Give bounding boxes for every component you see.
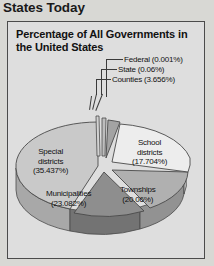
callout-label-federal: Federal (0.001%) — [124, 55, 183, 64]
slice-label-school-districts: Schooldistricts(17.704%) — [132, 138, 167, 167]
leader-line-federal-horizontal — [106, 59, 123, 60]
pie-slice-federal-top — [96, 116, 100, 156]
callout-label-state: State (0.06%) — [118, 65, 164, 74]
pie-slice-state-top — [102, 118, 106, 156]
leader-line-state-horizontal — [101, 69, 117, 70]
page-header: States Today — [0, 0, 214, 20]
slice-label-townships: Townships(20.06%) — [120, 185, 156, 204]
leader-line-counties-horizontal — [96, 79, 111, 80]
callout-label-counties: Counties (3.656%) — [112, 75, 175, 84]
chart-panel: Percentage of All Governments in the Uni… — [7, 21, 205, 259]
slice-label-municipalities: Municipalities(23.082%) — [46, 189, 91, 208]
page-title: States Today — [3, 0, 85, 15]
slice-label-special-districts: Specialdistricts(35.437%) — [33, 147, 68, 176]
chart-title: Percentage of All Governments in the Uni… — [16, 28, 196, 54]
